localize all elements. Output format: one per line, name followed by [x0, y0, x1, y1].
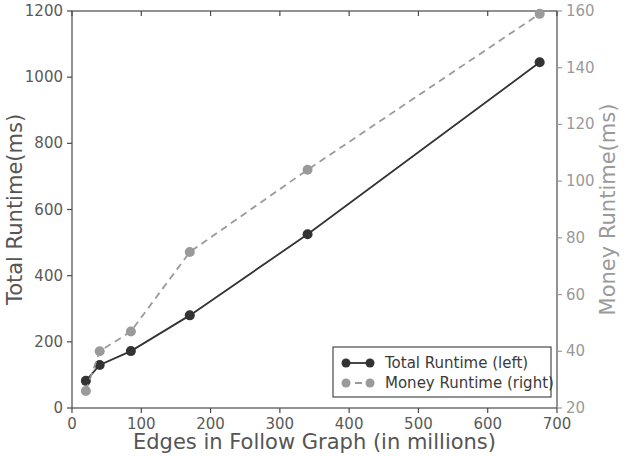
data-point [95, 360, 105, 370]
y-tick-label: 1200 [25, 2, 63, 20]
y-tick-label: 800 [34, 134, 63, 152]
legend-marker [342, 379, 351, 388]
data-point [303, 165, 313, 175]
series-line-0 [86, 62, 540, 381]
y2-tick-label: 120 [566, 115, 595, 133]
data-point [81, 386, 91, 396]
data-point [126, 326, 136, 336]
chart-svg: 0100200300400500600700020040060080010001… [0, 0, 632, 456]
data-point [95, 346, 105, 356]
data-point [185, 247, 195, 257]
legend-marker [366, 359, 375, 368]
y2-tick-label: 60 [566, 286, 585, 304]
legend-label-1: Money Runtime (right) [385, 374, 554, 392]
y2-tick-label: 140 [566, 59, 595, 77]
data-point [535, 57, 545, 67]
y-axis-label: Total Runtime(ms) [3, 114, 27, 306]
legend-marker [342, 359, 351, 368]
y-tick-label: 0 [53, 399, 63, 417]
x-axis-label: Edges in Follow Graph (in millions) [133, 430, 496, 454]
y-tick-label: 400 [34, 267, 63, 285]
x-tick-label: 700 [543, 415, 572, 433]
y-tick-label: 1000 [25, 68, 63, 86]
y2-axis-label: Money Runtime(ms) [596, 104, 620, 316]
data-point [81, 376, 91, 386]
y-tick-label: 200 [34, 333, 63, 351]
data-point [126, 346, 136, 356]
data-point [185, 310, 195, 320]
legend-label-0: Total Runtime (left) [384, 354, 528, 372]
y-tick-label: 600 [34, 201, 63, 219]
data-point [535, 9, 545, 19]
x-tick-label: 0 [67, 415, 77, 433]
legend-marker [366, 379, 375, 388]
y2-tick-label: 40 [566, 342, 585, 360]
y2-tick-label: 80 [566, 229, 585, 247]
y2-tick-label: 160 [566, 2, 595, 20]
data-point [303, 229, 313, 239]
series-line-1 [86, 14, 540, 391]
chart-figure: 0100200300400500600700020040060080010001… [0, 0, 632, 456]
y2-tick-label: 20 [566, 399, 585, 417]
y2-tick-label: 100 [566, 172, 595, 190]
